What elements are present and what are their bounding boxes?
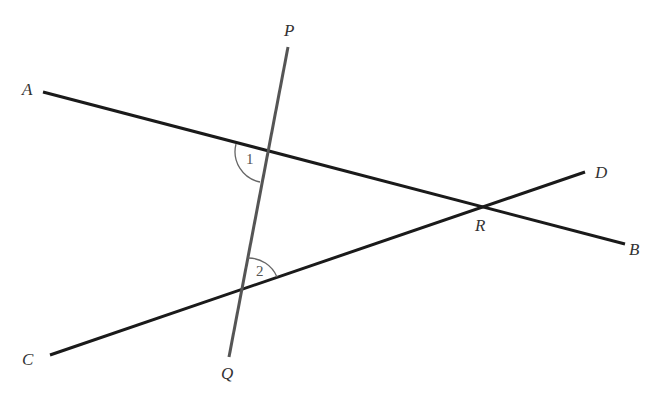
point-label-c: C — [22, 350, 34, 369]
line-pq — [229, 47, 288, 357]
geometry-diagram: 1 2 A B C D P Q R — [0, 0, 661, 399]
line-ab — [43, 92, 625, 244]
point-label-b: B — [629, 240, 640, 259]
point-label-r: R — [474, 216, 486, 235]
angle-2-label: 1 — [246, 151, 254, 167]
point-label-a: A — [21, 80, 33, 99]
point-label-p: P — [283, 21, 294, 40]
line-cd — [50, 172, 585, 355]
point-label-d: D — [594, 163, 608, 182]
point-label-q: Q — [221, 364, 233, 383]
angle-1-label: 2 — [256, 263, 264, 279]
